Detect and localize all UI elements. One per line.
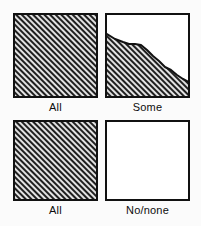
hatch-full-top bbox=[15, 15, 98, 98]
swatch-all-bottom bbox=[13, 120, 98, 201]
swatch-all-top bbox=[13, 13, 98, 98]
caption-all-top: All bbox=[13, 101, 98, 114]
legend-cell-all-top: All bbox=[13, 13, 98, 98]
swatch-some bbox=[105, 13, 190, 98]
legend-cell-nonone: No/none bbox=[105, 120, 190, 201]
legend-cell-some: Some bbox=[105, 13, 190, 98]
caption-some: Some bbox=[105, 101, 190, 114]
swatch-nonone bbox=[105, 120, 190, 201]
caption-nonone: No/none bbox=[105, 204, 190, 217]
hatch-partial-some bbox=[107, 15, 190, 98]
shading-key-figure: All Some All No/none bbox=[0, 0, 201, 226]
hatch-full-bottom bbox=[15, 122, 98, 201]
legend-cell-all-bottom: All bbox=[13, 120, 98, 201]
caption-all-bottom: All bbox=[13, 204, 98, 217]
